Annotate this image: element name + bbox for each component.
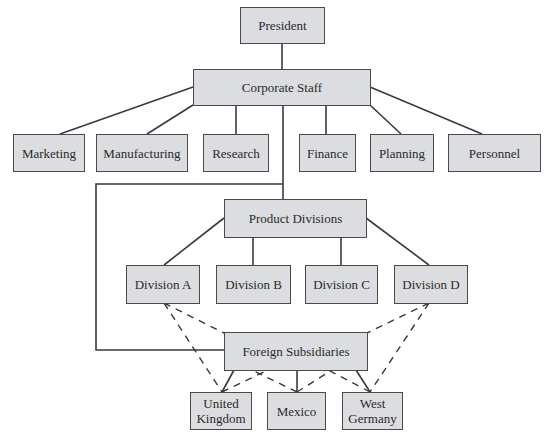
division-d-label: Division D (402, 277, 459, 292)
division-b-box: Division B (216, 265, 291, 304)
united-kingdom-label: United Kingdom (196, 396, 245, 426)
division-a-label: Division A (135, 277, 192, 292)
division-b-label: Division B (225, 277, 282, 292)
connector-manufacturing (147, 105, 193, 134)
connector-west-germany (356, 370, 370, 392)
dashed-mexico-foreign-left (252, 370, 297, 392)
dashed-division-a-uk (164, 303, 222, 392)
dashed-mexico-foreign-right (297, 370, 332, 392)
product-divisions-label: Product Divisions (249, 211, 343, 226)
marketing-label: Marketing (22, 146, 76, 161)
connector-personnel (370, 87, 482, 134)
org-chart: President Corporate Staff Marketing Manu… (0, 0, 548, 439)
planning-box: Planning (370, 134, 434, 172)
manufacturing-box: Manufacturing (96, 134, 188, 172)
product-divisions-box: Product Divisions (224, 199, 367, 238)
division-c-label: Division C (313, 277, 370, 292)
manufacturing-label: Manufacturing (103, 146, 180, 161)
foreign-subsidiaries-label: Foreign Subsidiaries (242, 344, 349, 359)
connector-division-a (164, 218, 224, 265)
research-box: Research (203, 134, 269, 172)
mexico-box: Mexico (267, 392, 326, 430)
connector-division-d (366, 218, 429, 265)
president-label: President (258, 18, 306, 33)
personnel-label: Personnel (469, 146, 520, 161)
corporate-staff-label: Corporate Staff (242, 80, 322, 95)
foreign-subsidiaries-box: Foreign Subsidiaries (224, 332, 368, 371)
west-germany-label: West Germany (348, 396, 396, 426)
mexico-label: Mexico (277, 404, 317, 419)
marketing-box: Marketing (13, 134, 85, 172)
connector-planning (370, 105, 401, 134)
finance-label: Finance (307, 146, 348, 161)
division-d-box: Division D (394, 265, 468, 304)
division-c-box: Division C (305, 265, 378, 304)
connector-marketing (60, 87, 193, 134)
united-kingdom-box: United Kingdom (190, 392, 252, 430)
personnel-box: Personnel (448, 134, 541, 172)
corporate-staff-box: Corporate Staff (193, 69, 371, 106)
division-a-box: Division A (126, 265, 200, 304)
finance-box: Finance (299, 134, 356, 172)
planning-label: Planning (379, 146, 425, 161)
president-box: President (240, 7, 325, 44)
dashed-division-d-germany (370, 303, 429, 392)
west-germany-box: West Germany (342, 392, 403, 430)
research-label: Research (212, 146, 260, 161)
